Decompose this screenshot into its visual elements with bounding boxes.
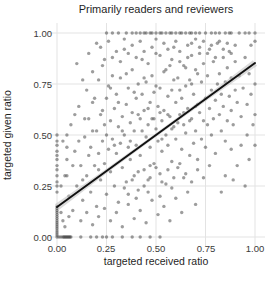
y-axis-title: targeted given ratio: [1, 90, 13, 180]
y-tick-label: 0.75: [34, 79, 53, 90]
y-tick-label: 0.25: [34, 181, 53, 192]
x-tick-label: 0.00: [48, 243, 67, 254]
x-axis-tick-labels: 0.00 0.25 0.50 0.75 1.00: [48, 243, 265, 254]
x-tick-label: 0.25: [97, 243, 116, 254]
y-tick-label: 1.00: [34, 28, 53, 39]
scatter-plot: Primarily readers and reviewers 0.00 0.2…: [0, 0, 270, 284]
y-axis-tick-labels: 0.00 0.25 0.50 0.75 1.00: [34, 28, 53, 243]
x-tick-label: 0.50: [147, 243, 166, 254]
y-tick-label: 0.00: [34, 232, 53, 243]
x-tick-label: 0.75: [197, 243, 216, 254]
x-axis-title: targeted received ratio: [104, 255, 209, 267]
chart-title: Primarily readers and reviewers: [79, 3, 234, 15]
x-tick-label: 1.00: [246, 243, 265, 254]
scatter-plot-figure: Primarily readers and reviewers 0.00 0.2…: [0, 0, 270, 284]
y-tick-label: 0.50: [34, 130, 53, 141]
